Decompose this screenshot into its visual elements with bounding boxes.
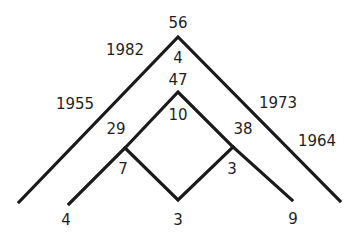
label-outer-left-upper: 1982: [106, 43, 144, 58]
label-bottom-right: 9: [288, 212, 298, 227]
lower-diamond: [125, 147, 233, 200]
label-right-junction-top: 38: [233, 122, 252, 137]
label-bottom-left: 4: [61, 213, 71, 228]
inner-right-arm: [233, 147, 292, 200]
label-right-junction-inside: 3: [227, 162, 237, 177]
label-left-junction-top: 29: [106, 122, 125, 137]
label-inner-apex-inside: 10: [168, 108, 187, 123]
label-outer-left-lower: 1955: [56, 97, 94, 112]
number-diagram: 56 4 1982 1955 1973 1964 47 10 29 7 38 3…: [0, 0, 360, 242]
label-bottom-center: 3: [173, 213, 183, 228]
label-outer-apex-top: 56: [168, 16, 187, 31]
label-outer-right-lower: 1964: [298, 134, 336, 149]
label-outer-apex-inside: 4: [173, 51, 183, 66]
label-outer-right-upper: 1973: [259, 96, 297, 111]
label-inner-apex-top: 47: [168, 73, 187, 88]
label-left-junction-inside: 7: [118, 162, 128, 177]
